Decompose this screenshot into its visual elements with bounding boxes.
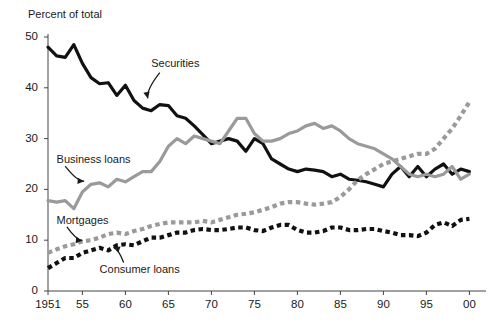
series-line (48, 219, 469, 268)
y-tick-label: 30 (12, 132, 38, 144)
y-tick-label: 50 (12, 30, 38, 42)
annotation-arrow (143, 73, 159, 99)
y-tick-label: 10 (12, 233, 38, 245)
x-tick-label: 75 (234, 298, 274, 310)
series-line (48, 102, 469, 253)
x-tick-label: 60 (105, 298, 145, 310)
x-tick-label: 00 (449, 298, 489, 310)
x-tick-label: 55 (62, 298, 102, 310)
x-tick-label: 80 (277, 298, 317, 310)
y-tick-label: 0 (12, 284, 38, 296)
series-line (48, 45, 469, 187)
x-tick-label: 95 (406, 298, 446, 310)
annotation-arrow (113, 247, 123, 263)
chart-container: Percent of total 01020304050 19515560657… (0, 0, 494, 333)
y-tick-label: 40 (12, 81, 38, 93)
annotation-arrow (65, 166, 84, 184)
series-label-securities: Securities (151, 57, 199, 69)
plot-area (0, 0, 494, 333)
x-tick-label: 85 (320, 298, 360, 310)
x-tick-label: 90 (363, 298, 403, 310)
series-label-business-loans: Business loans (57, 153, 131, 165)
x-tick-label: 65 (148, 298, 188, 310)
x-tick-label: 70 (191, 298, 231, 310)
series-label-mortgages: Mortgages (57, 214, 109, 226)
annotation-arrow (67, 227, 82, 243)
series-label-consumer-loans: Consumer loans (100, 263, 180, 275)
y-tick-label: 20 (12, 182, 38, 194)
